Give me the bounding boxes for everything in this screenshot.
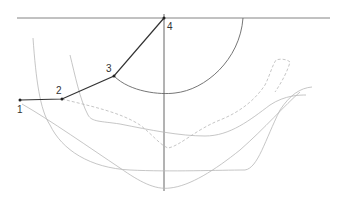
point-3-label: 3 [106, 63, 112, 74]
point-4-marker [163, 17, 166, 20]
polyline-path [20, 18, 164, 100]
diagram-canvas: 1 2 3 4 [0, 0, 345, 203]
point-1-marker [19, 99, 22, 102]
curve-c [22, 92, 300, 188]
curve-d [62, 59, 290, 148]
arc [114, 18, 243, 94]
point-2-label: 2 [56, 85, 62, 96]
point-3-marker [113, 75, 116, 78]
point-4-label: 4 [167, 21, 173, 32]
point-1-label: 1 [17, 104, 23, 115]
curve-group [22, 38, 312, 188]
point-2-marker [61, 98, 64, 101]
